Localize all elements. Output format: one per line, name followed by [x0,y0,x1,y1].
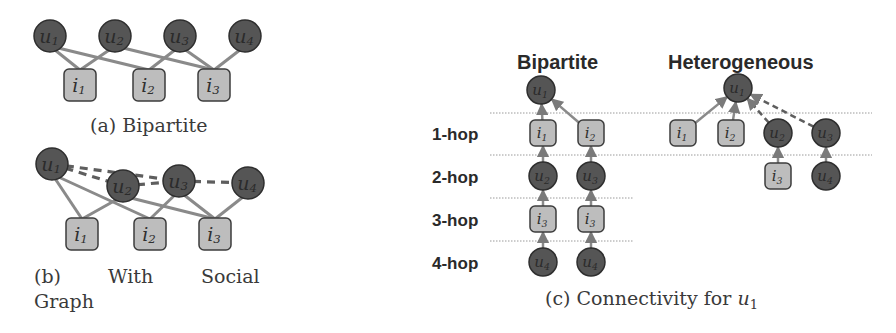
user-node-u4: u4 [812,162,840,190]
panel-b-caption-line-2: Graph [34,290,94,312]
interaction-arrow [733,102,736,120]
panel-c-caption-var: u [737,287,749,309]
user-node-u1: u1 [34,20,66,52]
user-node-u1: u1 [724,74,752,102]
user-node-u2: u2 [529,162,557,190]
panel-c-connectivity: Bipartite Heterogeneous 1-hop2-hop3-hop4… [432,51,872,312]
panel-c-caption-prefix: (c) Connectivity for [545,287,737,309]
heterogeneous-title: Heterogeneous [668,51,814,73]
panel-a-edges [50,46,245,70]
panel-b-social-graph: u1u2u3u4i1i2i3 (b) With Social Graph [34,148,264,312]
user-node-u3: u3 [812,119,840,147]
item-node-i1: i1 [670,120,696,146]
item-node-i1: i1 [66,218,98,250]
panel-a-bipartite: u1u2u3u4i1i2i3 (a) Bipartite [34,20,261,136]
user-node-u4: u4 [529,248,557,276]
item-node-i3: i3 [198,69,230,101]
item-node-i2: i2 [718,120,744,146]
item-node-i3: i3 [765,163,791,189]
item-node-i1: i1 [530,120,556,146]
interaction-arrow [542,104,543,120]
hop-labels: 1-hop2-hop3-hop4-hop [432,125,478,273]
item-node-i3: i3 [199,218,231,250]
item-node-i2: i2 [134,218,166,250]
hop-label: 1-hop [432,125,478,144]
user-node-u3: u3 [577,162,605,190]
panel-c-caption-sub: 1 [750,297,758,312]
connectivity-diagram: u1u2u3u4i1i2i3 (a) Bipartite u1u2u3u4i1i… [0,0,896,333]
panel-b-caption-word-1: (b) [34,265,61,287]
hop-label: 4-hop [432,254,478,273]
item-node-i3: i3 [578,206,604,232]
panel-b-social-edges [52,164,248,186]
interaction-arrow [552,99,582,124]
panel-b-edges [52,174,248,219]
user-node-u1: u1 [36,148,68,180]
user-node-u2: u2 [764,119,792,147]
user-node-u4: u4 [577,248,605,276]
item-node-i2: i2 [578,120,604,146]
user-node-u4: u4 [232,167,264,199]
user-node-u3: u3 [163,165,195,197]
user-node-u3: u3 [164,20,196,52]
hop-label: 3-hop [432,211,478,230]
panel-c-caption: (c) Connectivity for u1 [545,287,758,312]
item-node-i3: i3 [530,206,556,232]
user-node-u1: u1 [527,76,555,104]
panel-c-nodes: u1i1i2u2u3i3i3u4u4u1i1i2u2u3i3u4 [527,74,840,276]
hop-label: 2-hop [432,168,478,187]
item-node-i2: i2 [133,69,165,101]
panel-b-caption-word-2: With [108,265,153,287]
panel-a-caption: (a) Bipartite [90,114,207,136]
panel-b-caption-word-3: Social [201,265,260,287]
item-node-i1: i1 [64,69,96,101]
user-node-u4: u4 [229,20,261,52]
user-node-u2: u2 [99,20,131,52]
user-node-u2: u2 [107,170,139,202]
bipartite-title: Bipartite [517,51,598,73]
